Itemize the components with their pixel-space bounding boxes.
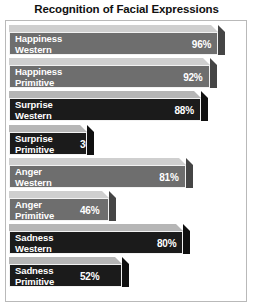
bar-side-face <box>122 257 129 287</box>
bar-value-label: 96% <box>192 39 211 50</box>
bar-category-label: Happiness Western <box>15 34 62 55</box>
bar-row[interactable]: Happiness Primitive92% <box>9 58 217 88</box>
bar-value-label: 46% <box>80 205 99 216</box>
bar-value-label: 88% <box>174 105 193 116</box>
bar-row[interactable]: Happiness Western96% <box>9 25 225 55</box>
bar-category-label: Anger Primitive <box>15 200 54 221</box>
bar-side-face <box>186 158 193 188</box>
bar-top-face <box>9 91 201 98</box>
bar-value-label: 92% <box>183 72 202 83</box>
bar-front-face[interactable]: Anger Western81% <box>9 165 186 188</box>
bar-top-face <box>9 58 210 65</box>
bar-top-face <box>9 224 183 231</box>
bar-row[interactable]: Sadness Western80% <box>9 224 190 254</box>
bar-top-face <box>9 158 186 165</box>
bar-row[interactable]: Surprise Western88% <box>9 91 208 121</box>
bar-top-face <box>9 257 122 264</box>
bar-front-face[interactable]: Surprise Primitive36% <box>9 132 87 155</box>
bar-value-label: 52% <box>80 271 99 282</box>
bar-category-label: Sadness Western <box>15 233 53 254</box>
bar-front-face[interactable]: Anger Primitive46% <box>9 198 109 221</box>
bar-side-face <box>210 58 217 88</box>
bar-top-face <box>9 25 218 32</box>
bar-side-face <box>218 25 225 55</box>
bar-category-label: Surprise Western <box>15 100 53 121</box>
bar-row[interactable]: Sadness Primitive52% <box>9 257 129 287</box>
bar-series: Happiness Western96%Happiness Primitive9… <box>9 25 245 299</box>
bar-row[interactable]: Anger Primitive46% <box>9 191 116 221</box>
bar-side-face <box>201 91 208 121</box>
bar-value-label: 81% <box>159 172 178 183</box>
chart-root: Recognition of Facial Expressions Happin… <box>0 0 253 307</box>
bar-value-label: 36% <box>80 139 87 150</box>
bar-category-label: Anger Western <box>15 167 52 188</box>
bar-row[interactable]: Anger Western81% <box>9 158 193 188</box>
bar-category-label: Surprise Primitive <box>15 134 54 155</box>
bar-top-face <box>9 125 87 132</box>
bar-category-label: Sadness Primitive <box>15 266 54 287</box>
bar-front-face[interactable]: Happiness Primitive92% <box>9 65 210 88</box>
bar-front-face[interactable]: Sadness Western80% <box>9 231 183 254</box>
bar-row[interactable]: Surprise Primitive36% <box>9 125 94 155</box>
bar-top-face <box>9 191 109 198</box>
bar-side-face <box>87 125 94 155</box>
chart-title: Recognition of Facial Expressions <box>0 3 253 15</box>
bar-side-face <box>183 224 190 254</box>
bar-value-label: 80% <box>157 238 176 249</box>
bar-front-face[interactable]: Surprise Western88% <box>9 98 201 121</box>
bar-front-face[interactable]: Happiness Western96% <box>9 32 218 55</box>
bar-front-face[interactable]: Sadness Primitive52% <box>9 264 122 287</box>
bar-side-face <box>109 191 116 221</box>
bar-category-label: Happiness Primitive <box>15 67 62 88</box>
